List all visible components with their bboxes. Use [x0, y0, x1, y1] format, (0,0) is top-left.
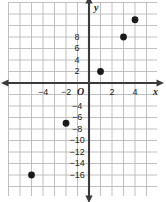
data-point [120, 34, 127, 41]
data-point [132, 16, 139, 23]
data-point [97, 68, 104, 75]
data-point [63, 120, 70, 127]
data-point-layer [0, 0, 166, 202]
data-point [28, 172, 35, 179]
coordinate-plane-figure: O x y −4−2248642−4−6−8−10−12−14−16 [0, 0, 166, 202]
